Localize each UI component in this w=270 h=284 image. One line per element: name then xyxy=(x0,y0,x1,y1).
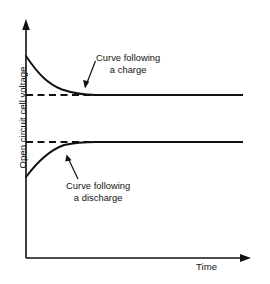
discharge-annotation-line2: a discharge xyxy=(66,193,130,205)
discharge-annotation-arrow-shaft xyxy=(69,159,79,179)
charge-annotation-label: Curve following a charge xyxy=(96,53,160,76)
cut-off-caption-strip xyxy=(0,276,270,284)
charge-annotation-arrow-shaft xyxy=(87,61,96,84)
discharge-annotation-label: Curve following a discharge xyxy=(66,181,130,204)
discharge-curve xyxy=(26,142,96,177)
charge-annotation-arrowhead xyxy=(83,80,89,88)
charge-annotation-line2: a charge xyxy=(96,65,160,77)
chart-canvas xyxy=(0,0,270,284)
discharge-annotation-line1: Curve following xyxy=(66,181,130,193)
charge-curve xyxy=(26,56,96,95)
x-axis-arrowhead xyxy=(240,254,251,262)
discharge-annotation-arrowhead xyxy=(65,155,71,162)
charge-annotation-line1: Curve following xyxy=(96,53,160,65)
figure-container: Curve following a charge Curve following… xyxy=(0,0,270,284)
x-axis-label: Time xyxy=(196,261,217,272)
y-axis-arrowhead xyxy=(22,19,30,30)
y-axis-label: Open circuit cell voltage xyxy=(17,53,28,183)
